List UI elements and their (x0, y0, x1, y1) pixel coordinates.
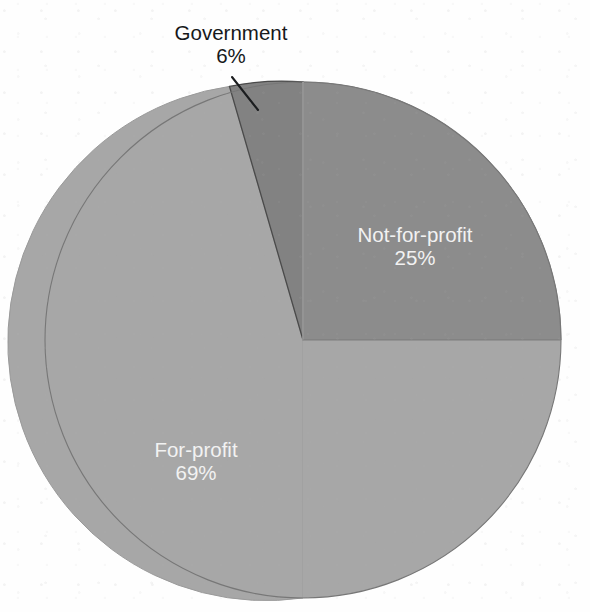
pie-label-not-for-profit: Not-for-profit 25% (340, 224, 490, 270)
pie-label-government-name: Government (153, 22, 309, 45)
pie-label-not-for-profit-value: 25% (340, 247, 490, 270)
pie-label-not-for-profit-name: Not-for-profit (340, 224, 490, 247)
pie-slice-for-profit-lower (303, 340, 561, 598)
pie-label-for-profit-value: 69% (122, 462, 270, 485)
pie-label-for-profit-name: For-profit (122, 439, 270, 462)
pie-chart-graphic (0, 0, 590, 612)
pie-label-for-profit: For-profit 69% (122, 439, 270, 485)
pie-chart-page: Government 6% Not-for-profit 25% For-pro… (0, 0, 590, 612)
pie-label-government: Government 6% (153, 22, 309, 68)
pie-slice-not-for-profit[interactable] (303, 82, 561, 340)
pie-label-government-value: 6% (153, 45, 309, 68)
